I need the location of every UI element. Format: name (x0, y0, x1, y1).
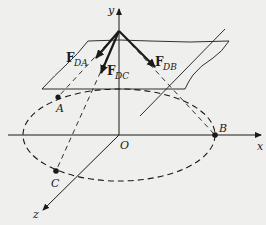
svg-text:DB: DB (162, 62, 177, 72)
force-db-label: F DB (155, 55, 177, 72)
x-axis-label: x (257, 140, 264, 153)
z-axis-label: z (32, 208, 39, 221)
point-c-label: C (51, 177, 60, 190)
point-c (53, 168, 59, 174)
y-axis-label: y (107, 4, 115, 17)
point-a-label: A (55, 102, 64, 115)
dashed-cables (56, 31, 215, 171)
force-dc-label: F DC (107, 64, 129, 81)
force-diagram: y x z O A B C F DA F DC F DB (0, 0, 266, 225)
svg-text:DC: DC (114, 71, 129, 81)
point-a (55, 94, 60, 99)
force-vectors (96, 31, 155, 73)
svg-text:DA: DA (73, 58, 88, 68)
point-b-label: B (218, 122, 227, 135)
origin-label: O (120, 139, 129, 152)
force-db-arrow (119, 31, 155, 67)
point-b (212, 132, 218, 138)
force-da-arrow (96, 31, 119, 58)
